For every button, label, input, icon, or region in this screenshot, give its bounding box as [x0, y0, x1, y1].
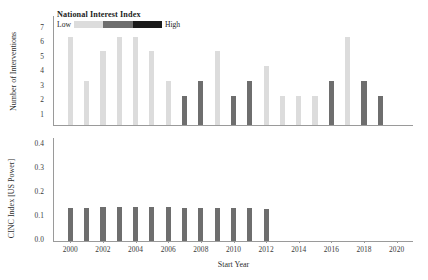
bar-interventions-2010 — [231, 96, 236, 125]
y-tick-0-2: 0.2 — [24, 187, 44, 196]
x-tick-label-2008: 2008 — [189, 245, 213, 254]
x-tick-label-2006: 2006 — [156, 245, 180, 254]
legend-segment-1 — [103, 21, 132, 28]
panel-interventions: Number of Interventions 7 6 5 4 3 2 1 Na… — [0, 0, 428, 132]
y-tick-0-0: 0.0 — [24, 235, 44, 244]
panel-cinc: CINC Index [US Power] 0.4 0.3 0.2 0.1 0.… — [0, 132, 428, 280]
bar-cinc-2008 — [198, 208, 203, 241]
y-tick-7: 7 — [32, 23, 44, 32]
x-tick-label-2000: 2000 — [58, 245, 82, 254]
x-axis-spine-top-panel — [53, 125, 413, 126]
bar-interventions-2002 — [100, 51, 105, 125]
x-tick-label-2020: 2020 — [385, 245, 409, 254]
y-tick-0-3: 0.3 — [24, 163, 44, 172]
bar-cinc-2007 — [182, 208, 187, 241]
bar-interventions-2012 — [264, 66, 269, 125]
y-tick-2: 2 — [32, 95, 44, 104]
bar-cinc-2005 — [149, 207, 154, 241]
x-tick-label-2012: 2012 — [254, 245, 278, 254]
legend-title: National Interest Index — [57, 10, 180, 19]
legend-segment-0 — [74, 21, 103, 28]
x-tick-label-2010: 2010 — [222, 245, 246, 254]
bar-interventions-2016 — [329, 81, 334, 125]
y-tick-0-1: 0.1 — [24, 211, 44, 220]
x-tick-label-2016: 2016 — [319, 245, 343, 254]
x-tick-label-2018: 2018 — [352, 245, 376, 254]
x-tick-mark-2008 — [201, 241, 202, 243]
y-tick-3: 3 — [32, 81, 44, 90]
bar-interventions-2015 — [312, 96, 317, 125]
bar-interventions-2007 — [182, 96, 187, 125]
bar-cinc-2002 — [100, 207, 105, 241]
bar-interventions-2009 — [215, 51, 220, 125]
legend-scale-row: Low High — [57, 20, 180, 29]
bar-interventions-2003 — [117, 37, 122, 125]
bar-interventions-2006 — [166, 81, 171, 125]
legend-low-label: Low — [57, 20, 71, 29]
legend-gradient-bar — [74, 21, 162, 28]
bar-cinc-2011 — [247, 208, 252, 241]
bar-cinc-2001 — [84, 208, 89, 241]
plot-area-cinc — [54, 138, 413, 241]
x-tick-mark-2006 — [168, 241, 169, 243]
x-tick-label-2002: 2002 — [91, 245, 115, 254]
bar-interventions-2011 — [247, 81, 252, 125]
x-tick-mark-2014 — [299, 241, 300, 243]
legend-national-interest-index: National Interest Index Low High — [57, 10, 180, 29]
x-tick-mark-2002 — [103, 241, 104, 243]
y-tick-0-4: 0.4 — [24, 139, 44, 148]
bar-interventions-2005 — [149, 51, 154, 125]
bar-interventions-2001 — [84, 81, 89, 125]
bar-cinc-2010 — [231, 208, 236, 241]
y-tick-1: 1 — [32, 110, 44, 119]
x-tick-mark-2010 — [234, 241, 235, 243]
y-tick-6: 6 — [32, 37, 44, 46]
bar-interventions-2017 — [345, 37, 350, 125]
x-tick-mark-2000 — [70, 241, 71, 243]
y-tick-5: 5 — [32, 52, 44, 61]
bar-cinc-2009 — [215, 208, 220, 241]
bar-interventions-2019 — [378, 96, 383, 125]
bar-interventions-2004 — [133, 37, 138, 125]
bar-interventions-2014 — [296, 96, 301, 125]
x-tick-mark-2020 — [397, 241, 398, 243]
x-tick-mark-2004 — [136, 241, 137, 243]
y-axis-label-interventions: Number of Interventions — [9, 22, 18, 122]
bar-cinc-2004 — [133, 207, 138, 241]
x-tick-mark-2018 — [364, 241, 365, 243]
y-axis-label-cinc: CINC Index [US Power] — [7, 144, 16, 254]
x-tick-mark-2012 — [266, 241, 267, 243]
bar-cinc-2012 — [264, 209, 269, 241]
bar-interventions-2018 — [361, 81, 366, 125]
x-tick-label-2014: 2014 — [287, 245, 311, 254]
figure-canvas: Number of Interventions 7 6 5 4 3 2 1 Na… — [0, 0, 428, 280]
legend-segment-2 — [133, 21, 162, 28]
bar-interventions-2000 — [68, 37, 73, 125]
legend-high-label: High — [165, 20, 180, 29]
bar-interventions-2008 — [198, 81, 203, 125]
x-axis-label: Start Year — [54, 260, 413, 269]
bar-interventions-2013 — [280, 96, 285, 125]
bar-cinc-2003 — [117, 207, 122, 241]
bar-cinc-2006 — [166, 207, 171, 241]
plot-area-interventions — [54, 16, 413, 125]
y-tick-4: 4 — [32, 66, 44, 75]
bar-cinc-2000 — [68, 208, 73, 241]
x-tick-mark-2016 — [331, 241, 332, 243]
x-tick-label-2004: 2004 — [124, 245, 148, 254]
